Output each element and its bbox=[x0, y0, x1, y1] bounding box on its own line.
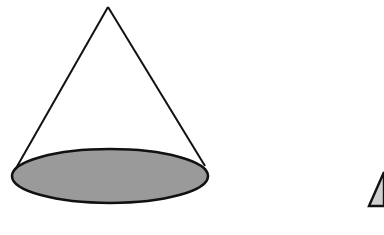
cone-right-edge bbox=[108, 7, 205, 166]
cone-base-ellipse bbox=[12, 149, 208, 203]
partial-pyramid-face bbox=[369, 172, 384, 206]
cone-left-edge bbox=[15, 7, 108, 170]
partial-pyramid bbox=[369, 172, 384, 206]
cone bbox=[12, 7, 208, 203]
diagram-canvas bbox=[0, 0, 384, 235]
